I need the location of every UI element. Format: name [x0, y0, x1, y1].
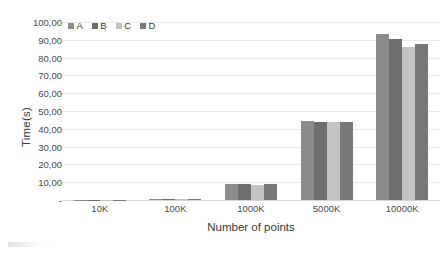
plot-area [62, 22, 440, 200]
y-axis-tick-label: 20,00 [4, 159, 62, 170]
chart-legend: ABCD [68, 21, 155, 31]
legend-item-c[interactable]: C [116, 21, 131, 31]
bar-c-100K [175, 199, 188, 200]
x-axis-tick-label: 10K [62, 203, 138, 214]
bar-group [62, 22, 138, 200]
legend-item-a[interactable]: A [68, 21, 83, 31]
x-axis-tick-label: 1000K [213, 203, 289, 214]
y-axis-tick-label: 80,00 [4, 52, 62, 63]
legend-label: C [124, 21, 131, 31]
y-axis-tick-label: 100,00 [4, 17, 62, 28]
bar-a-10000K [376, 34, 389, 200]
legend-swatch-icon [116, 23, 122, 29]
bar-b-1000K [238, 184, 251, 200]
x-axis-tick-label: 5000K [289, 203, 365, 214]
bar-group [138, 22, 214, 200]
legend-item-d[interactable]: D [140, 21, 155, 31]
legend-swatch-icon [140, 23, 146, 29]
bar-b-5000K [314, 122, 327, 200]
bar-group [213, 22, 289, 200]
legend-item-b[interactable]: B [92, 21, 107, 31]
x-axis-tick-labels: 10K100K1000K5000K10000K [62, 203, 440, 214]
y-axis-tick-label: 30,00 [4, 141, 62, 152]
y-axis-tick-label: 40,00 [4, 123, 62, 134]
bar-d-1000K [264, 184, 277, 200]
gridline [62, 200, 440, 201]
bar-a-100K [149, 199, 162, 200]
legend-swatch-icon [68, 23, 74, 29]
scan-artifact [8, 242, 60, 247]
bar-c-1000K [251, 185, 264, 200]
bar-group [289, 22, 365, 200]
bar-groups [62, 22, 440, 200]
bar-b-100K [162, 199, 175, 200]
legend-label: D [149, 21, 156, 31]
legend-label: B [100, 21, 106, 31]
bar-b-10000K [389, 39, 402, 200]
bar-c-5000K [327, 122, 340, 200]
y-axis-tick-label: 60,00 [4, 88, 62, 99]
y-axis-tick-label: 70,00 [4, 70, 62, 81]
bar-chart: Time(s) 100,0090,0080,0070,0060,0050,004… [0, 0, 447, 254]
bar-a-5000K [301, 121, 314, 200]
bar-a-1000K [225, 184, 238, 200]
bar-d-10000K [415, 44, 428, 200]
bar-d-5000K [340, 122, 353, 200]
bar-d-100K [188, 199, 201, 200]
legend-label: A [77, 21, 83, 31]
y-axis-tick-label: 50,00 [4, 106, 62, 117]
bar-c-10000K [402, 47, 415, 200]
y-axis-tick-label: 10,00 [4, 177, 62, 188]
x-axis-tick-label: 10000K [364, 203, 440, 214]
x-axis-tick-label: 100K [138, 203, 214, 214]
x-axis-title: Number of points [62, 221, 440, 233]
y-axis-tick-label: - [4, 195, 62, 206]
y-axis-tick-label: 90,00 [4, 34, 62, 45]
bar-group [364, 22, 440, 200]
legend-swatch-icon [92, 23, 98, 29]
